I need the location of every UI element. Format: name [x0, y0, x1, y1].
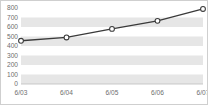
y-axis-tick-label: 100: [7, 71, 18, 78]
x-axis-tick-label: 6/06: [151, 89, 164, 96]
grid-band: [21, 75, 203, 85]
data-point-marker: [155, 18, 160, 23]
y-axis-tick-label: 600: [7, 23, 18, 30]
y-axis-tick-label: 400: [7, 42, 18, 49]
y-axis-tick-label: 800: [7, 4, 18, 11]
grid-band: [21, 56, 203, 66]
y-axis-tick-label: 300: [7, 52, 18, 59]
y-axis-tick-label: 0: [14, 80, 18, 87]
data-point-marker: [64, 35, 69, 40]
x-axis-tick-label: 6/04: [60, 89, 73, 96]
x-axis-tick-label: 6/07: [197, 89, 207, 96]
y-axis-tick-label: 700: [7, 14, 18, 21]
grid-band: [21, 18, 203, 28]
y-axis-tick-label: 200: [7, 61, 18, 68]
data-point-marker: [110, 27, 115, 32]
grid-band: [21, 37, 203, 47]
data-point-marker: [201, 7, 206, 12]
data-point-marker: [19, 38, 24, 43]
x-axis-tick-label: 6/05: [106, 89, 119, 96]
chart-canvas: 01002003004005006007008006/036/046/056/0…: [1, 1, 207, 104]
x-axis-tick-labels: 6/036/046/056/066/07: [15, 89, 207, 96]
line-chart: 01002003004005006007008006/036/046/056/0…: [0, 0, 208, 105]
x-axis-tick-label: 6/03: [15, 89, 28, 96]
y-axis-tick-label: 500: [7, 33, 18, 40]
y-axis-tick-labels: 0100200300400500600700800: [7, 4, 18, 87]
